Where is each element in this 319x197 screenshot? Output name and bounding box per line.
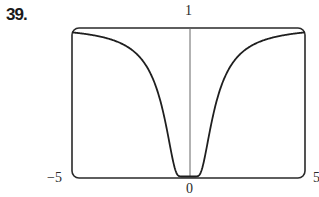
viewing-window-frame [72, 28, 305, 178]
y-tick-top: 1 [185, 3, 192, 19]
function-curve [72, 32, 305, 176]
x-tick-center: 0 [186, 181, 193, 197]
plot-area [0, 0, 319, 197]
x-tick-right: 5 [313, 170, 319, 186]
x-tick-left: −5 [47, 170, 62, 186]
